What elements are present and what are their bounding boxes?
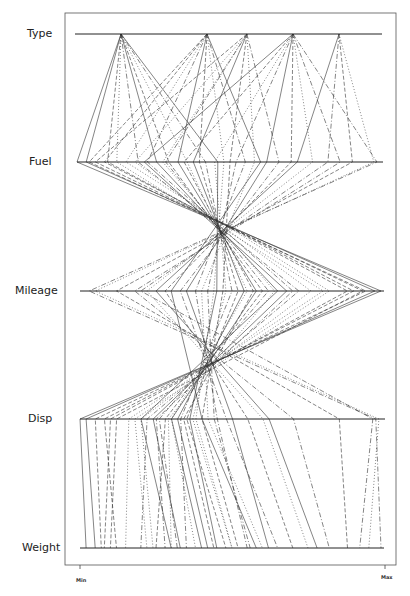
min-label: Min (76, 577, 86, 583)
parallel-coordinates-plot (0, 0, 410, 596)
axis-label-type: Type (27, 27, 52, 40)
max-label: Max (381, 574, 393, 580)
axis-label-mileage: Mileage (15, 284, 58, 297)
axis-label-weight: Weight (22, 541, 60, 554)
axis-label-fuel: Fuel (29, 155, 52, 168)
axis-label-disp: Disp (28, 412, 52, 425)
